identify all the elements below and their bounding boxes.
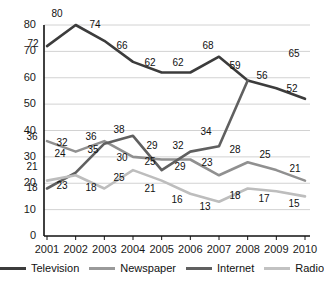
data-value-label: 25	[255, 149, 275, 160]
legend-swatch-icon	[264, 267, 290, 270]
x-axis-tick-label: 2005	[147, 243, 177, 255]
legend-item-internet[interactable]: Internet	[186, 262, 254, 274]
data-value-label: 68	[198, 40, 218, 51]
x-axis-tick-label: 2010	[290, 243, 320, 255]
legend-item-television[interactable]: Television	[0, 262, 79, 274]
data-value-label: 38	[109, 124, 129, 135]
data-value-label: 15	[284, 198, 304, 209]
chart-legend: TelevisionNewspaperInternetRadio	[0, 258, 324, 278]
data-value-label: 65	[284, 48, 304, 59]
data-value-label: 21	[285, 163, 305, 174]
data-value-label: 17	[254, 193, 274, 204]
data-value-label: 62	[140, 57, 160, 68]
data-value-label: 34	[196, 126, 216, 137]
legend-label: Newspaper	[120, 262, 176, 274]
chart-plot-area	[0, 0, 324, 281]
data-value-label: 25	[109, 172, 129, 183]
legend-label: Television	[31, 262, 79, 274]
data-value-label: 36	[22, 131, 42, 142]
data-value-label: 23	[197, 157, 217, 168]
data-value-label: 62	[168, 57, 188, 68]
legend-swatch-icon	[89, 267, 115, 270]
data-value-label: 74	[85, 19, 105, 30]
x-axis-tick-label: 2007	[204, 243, 234, 255]
x-axis-tick-label: 2004	[118, 243, 148, 255]
x-axis-tick-label: 2006	[175, 243, 205, 255]
data-value-label: 23	[52, 180, 72, 191]
data-value-label: 16	[167, 194, 187, 205]
data-value-label: 18	[22, 182, 42, 193]
data-value-label: 32	[52, 137, 72, 148]
data-value-label: 24	[50, 148, 70, 159]
x-axis-tick-label: 2003	[89, 243, 119, 255]
data-value-label: 52	[282, 83, 302, 94]
y-axis-tick-label: 60	[12, 71, 36, 83]
legend-item-radio[interactable]: Radio	[264, 262, 324, 274]
data-value-label: 18	[225, 190, 245, 201]
x-axis-tick-label: 2009	[261, 243, 291, 255]
data-value-label: 66	[112, 40, 132, 51]
data-value-label: 18	[81, 182, 101, 193]
data-value-label: 29	[170, 161, 190, 172]
y-axis-tick-label: 10	[12, 203, 36, 215]
data-value-label: 29	[142, 140, 162, 151]
y-axis-tick-label: 50	[12, 97, 36, 109]
data-value-label: 35	[83, 144, 103, 155]
data-value-label: 25	[140, 156, 160, 167]
data-value-label: 21	[140, 183, 160, 194]
data-value-label: 59	[225, 60, 245, 71]
data-value-label: 28	[225, 144, 245, 155]
line-chart: 80706050403020100 2001200220032004200520…	[0, 0, 324, 281]
x-axis-tick-label: 2008	[233, 243, 263, 255]
data-value-label: 32	[168, 140, 188, 151]
x-axis-tick-label: 2002	[61, 243, 91, 255]
data-value-label: 13	[195, 201, 215, 212]
legend-item-newspaper[interactable]: Newspaper	[89, 262, 176, 274]
data-value-label: 21	[22, 161, 42, 172]
data-value-label: 56	[252, 70, 272, 81]
data-value-label: 36	[81, 131, 101, 142]
series-line-internet	[47, 80, 248, 188]
legend-label: Internet	[217, 262, 254, 274]
x-axis-tick-label: 2001	[32, 243, 62, 255]
legend-swatch-icon	[186, 267, 212, 270]
data-value-label: 80	[47, 8, 67, 19]
data-value-label: 72	[23, 38, 43, 49]
y-axis-tick-label: 80	[12, 18, 36, 30]
data-value-label: 30	[112, 152, 132, 163]
legend-label: Radio	[295, 262, 324, 274]
legend-swatch-icon	[0, 267, 26, 270]
y-axis-tick-label: 0	[12, 229, 36, 241]
